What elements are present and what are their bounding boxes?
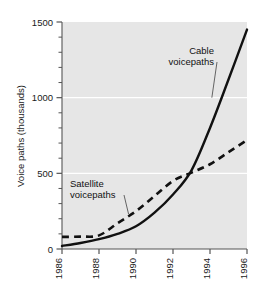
y-tick-label-1000: 1000 (32, 92, 53, 103)
chart-figure: 050010001500 198619881990199219941996 Vo… (0, 0, 266, 289)
plot-area-background (62, 22, 247, 249)
x-tick-label-1988: 1988 (90, 258, 101, 279)
annotation-satellite-label-line2: voicepaths (70, 189, 116, 200)
x-tick-label-1996: 1996 (238, 258, 249, 279)
x-tick-label-1994: 1994 (201, 258, 212, 279)
y-axis-title: Voice paths (thousands) (15, 85, 26, 187)
y-tick-label-500: 500 (37, 168, 53, 179)
annotation-satellite-label-line1: Satellite (70, 178, 104, 189)
y-tick-label-0: 0 (48, 244, 53, 255)
annotation-cable-label-line1: Cable (189, 45, 214, 56)
x-tick-label-1992: 1992 (164, 258, 175, 279)
annotation-cable-label-line2: voicepaths (169, 56, 215, 67)
x-tick-label-1990: 1990 (127, 258, 138, 279)
x-tick-label-1986: 1986 (53, 258, 64, 279)
y-tick-label-1500: 1500 (32, 17, 53, 28)
voice-paths-line-chart: 050010001500 198619881990199219941996 Vo… (0, 0, 266, 289)
